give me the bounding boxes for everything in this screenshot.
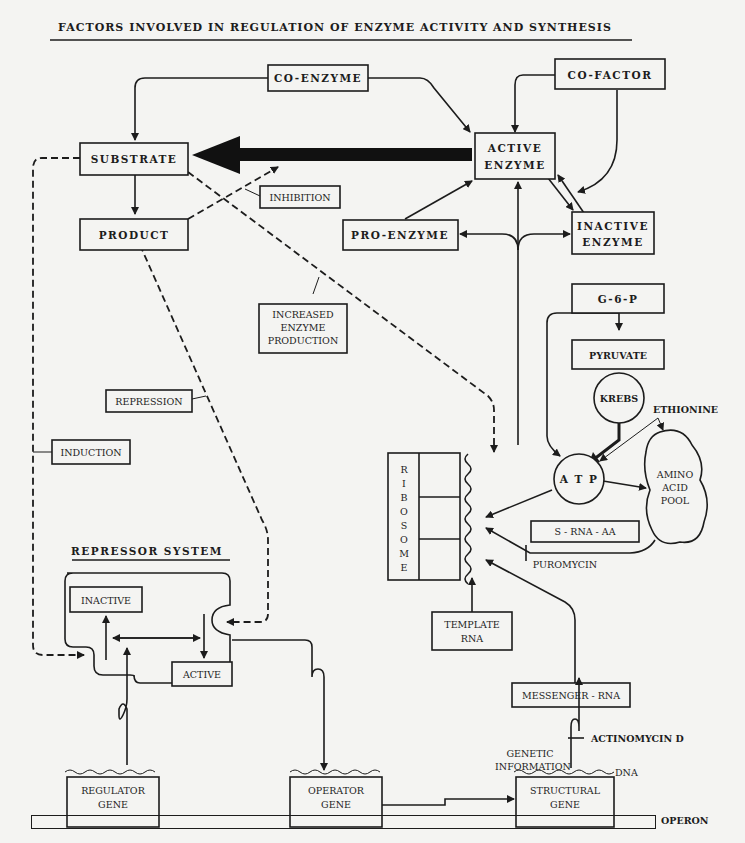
svg-text:ACTIVE: ACTIVE <box>487 142 542 154</box>
ethionine-label: ETHIONINE <box>653 404 718 415</box>
operator-to-structural-arrow <box>382 799 514 805</box>
svg-text:KREBS: KREBS <box>600 393 638 404</box>
inactive-enzyme-node: INACTIVE ENZYME <box>572 212 654 254</box>
svg-text:B: B <box>401 492 408 503</box>
svg-text:REGULATOR: REGULATOR <box>81 785 145 796</box>
svg-text:INACTIVE: INACTIVE <box>81 595 131 606</box>
branch-to-inactive-arrow <box>518 234 570 250</box>
svg-text:PRODUCTION: PRODUCTION <box>268 335 338 346</box>
svg-text:ENZYME: ENZYME <box>582 236 643 248</box>
svg-text:SUBSTRATE: SUBSTRATE <box>91 153 178 165</box>
repressor-to-operator-arrow <box>232 640 324 770</box>
cofactor-to-active-arrow <box>515 75 555 132</box>
svg-text:S: S <box>401 520 408 531</box>
s-rna-aa-node: S - RNA - AA <box>531 521 639 542</box>
svg-text:A T P: A T P <box>559 473 599 485</box>
svg-text:G-6-P: G-6-P <box>598 293 639 305</box>
coenzyme-to-active-arrow <box>368 78 470 132</box>
thick-arrow-head <box>192 136 240 174</box>
induction-dashed-arrow <box>33 158 84 655</box>
svg-text:TEMPLATE: TEMPLATE <box>444 619 499 630</box>
svg-text:RNA: RNA <box>461 633 483 644</box>
co-enzyme-node: CO-ENZYME <box>268 65 368 91</box>
svg-text:REPRESSION: REPRESSION <box>115 396 182 407</box>
svg-text:ENZYME: ENZYME <box>281 322 326 333</box>
svg-text:OPERATOR: OPERATOR <box>308 785 365 796</box>
genetic-information-label-1: GENETIC <box>506 748 553 759</box>
svg-text:R: R <box>400 464 408 475</box>
operon-bar <box>31 815 656 829</box>
dna-strand-regulator <box>65 770 155 774</box>
svg-text:ENZYME: ENZYME <box>484 159 545 171</box>
svg-text:INHIBITION: INHIBITION <box>269 192 330 203</box>
dna-strand-operator <box>290 770 380 774</box>
repression-label: REPRESSION <box>106 390 192 412</box>
svg-text:CO-ENZYME: CO-ENZYME <box>274 72 362 84</box>
svg-text:PRO-ENZYME: PRO-ENZYME <box>351 229 449 241</box>
svg-text:MESSENGER - RNA: MESSENGER - RNA <box>522 690 620 701</box>
atp-to-ribosome-arrow <box>486 490 552 517</box>
svg-text:O: O <box>400 534 408 545</box>
template-rna-node: TEMPLATE RNA <box>432 612 512 650</box>
ribosome-node: R I B O S O M E <box>388 453 460 580</box>
svg-text:PYRUVATE: PYRUVATE <box>589 350 647 361</box>
induction-label: INDUCTION <box>52 440 130 464</box>
svg-text:STRUCTURAL: STRUCTURAL <box>530 785 601 796</box>
messenger-rna-node: MESSENGER - RNA <box>512 683 630 707</box>
svg-text:INDUCTION: INDUCTION <box>60 447 121 458</box>
repressor-active-node: ACTIVE <box>172 662 232 686</box>
repression-dashed-arrow <box>140 245 268 622</box>
svg-text:ACTIVE: ACTIVE <box>182 669 221 680</box>
svg-text:O: O <box>400 506 408 517</box>
increased-enzyme-production-label: INCREASED ENZYME PRODUCTION <box>259 304 347 353</box>
coenzyme-to-substrate-arrow <box>135 78 268 140</box>
svg-text:INACTIVE: INACTIVE <box>577 220 649 232</box>
svg-text:GENE: GENE <box>550 799 580 810</box>
product-node: PRODUCT <box>80 219 188 250</box>
active-enzyme-node: ACTIVE ENZYME <box>475 133 555 179</box>
krebs-node: KREBS <box>594 373 644 423</box>
mrna-wavy-strand <box>465 454 471 584</box>
diagram-title: FACTORS INVOLVED IN REGULATION OF ENZYME… <box>58 21 612 34</box>
enzyme-regulation-diagram: FACTORS INVOLVED IN REGULATION OF ENZYME… <box>0 0 745 843</box>
co-factor-node: CO-FACTOR <box>555 59 665 89</box>
puromycin-label: PUROMYCIN <box>533 559 597 570</box>
active-to-inactive-arrow <box>548 178 573 210</box>
inhibition-pointer <box>245 189 260 196</box>
svg-text:GENE: GENE <box>321 799 351 810</box>
repressor-inactive-node: INACTIVE <box>70 587 142 612</box>
proenzyme-to-active-arrow <box>405 181 472 219</box>
ethionine-to-pool-arrow <box>658 418 663 430</box>
svg-text:POOL: POOL <box>661 495 690 506</box>
cofactor-to-inactive-arrow <box>578 90 617 192</box>
svg-text:ACID: ACID <box>661 482 688 493</box>
pro-enzyme-node: PRO-ENZYME <box>343 220 458 250</box>
repressor-system-title: REPRESSOR SYSTEM <box>71 545 223 557</box>
inhibition-label: INHIBITION <box>260 186 340 208</box>
actinomycin-label: ACTINOMYCIN D <box>590 733 684 744</box>
svg-text:INCREASED: INCREASED <box>272 309 334 320</box>
atp-to-pool-arrow <box>603 481 646 488</box>
dna-label: DNA <box>615 767 638 778</box>
svg-text:AMINO: AMINO <box>656 469 694 480</box>
krebs-to-atp-arrow <box>593 423 619 460</box>
substrate-node: SUBSTRATE <box>80 143 188 175</box>
operon-label: OPERON <box>661 815 709 826</box>
repression-pointer <box>192 396 206 399</box>
branch-to-proenzyme-arrow <box>460 234 518 250</box>
svg-text:I: I <box>402 478 406 489</box>
svg-text:CO-FACTOR: CO-FACTOR <box>568 69 653 81</box>
svg-text:PRODUCT: PRODUCT <box>99 229 170 241</box>
g6p-node: G-6-P <box>572 284 664 313</box>
svg-text:M: M <box>399 548 409 559</box>
amino-acid-pool-node: AMINO ACID POOL <box>645 430 708 543</box>
regulator-to-repressor-arrow <box>119 648 127 765</box>
svg-text:GENE: GENE <box>98 799 128 810</box>
pyruvate-node: PYRUVATE <box>572 340 664 369</box>
svg-text:S - RNA - AA: S - RNA - AA <box>554 526 615 537</box>
svg-text:E: E <box>401 562 408 573</box>
atp-node: A T P <box>554 454 604 504</box>
active-to-substrate-thick-arrow <box>232 148 472 161</box>
increased-production-pointer <box>313 277 319 294</box>
